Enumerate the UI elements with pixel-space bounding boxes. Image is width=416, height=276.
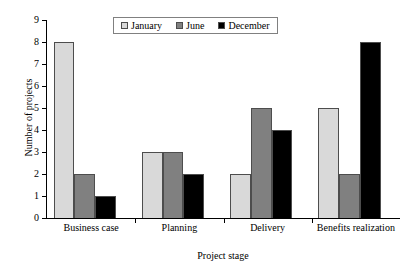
category-label-delivery: Delivery — [224, 222, 312, 233]
legend-item-january: January — [121, 20, 162, 31]
bar-january-benefits-realization — [318, 108, 339, 218]
y-tick-2 — [42, 174, 46, 175]
legend-swatch-icon-june — [176, 22, 183, 29]
legend-swatch-icon-december — [218, 22, 225, 29]
bar-january-delivery — [230, 174, 251, 218]
category-label-business-case: Business case — [47, 222, 135, 233]
y-tick-3 — [42, 152, 46, 153]
legend-label: June — [186, 20, 204, 31]
bar-group-bars — [47, 20, 142, 218]
bar-chart: Number of projects Project stage 0123456… — [0, 0, 416, 276]
y-tick-8 — [42, 42, 46, 43]
x-axis-line — [46, 218, 400, 219]
y-tick-label-6: 6 — [26, 81, 39, 91]
y-tick-label-7: 7 — [26, 59, 39, 69]
y-tick-9 — [42, 20, 46, 21]
x-axis-title: Project stage — [46, 250, 400, 261]
legend-item-june: June — [176, 20, 204, 31]
bar-december-delivery — [272, 130, 293, 218]
plot-area — [47, 20, 400, 218]
bar-group — [47, 20, 135, 218]
y-tick-label-9: 9 — [26, 15, 39, 25]
bar-group-bars — [135, 20, 230, 218]
bar-june-delivery — [251, 108, 272, 218]
y-tick-label-0: 0 — [26, 213, 39, 223]
bar-june-benefits-realization — [339, 174, 360, 218]
y-tick-label-3: 3 — [26, 147, 39, 157]
y-tick-6 — [42, 86, 46, 87]
category-label-planning: Planning — [135, 222, 223, 233]
bar-december-planning — [183, 174, 204, 218]
bar-group — [224, 20, 312, 218]
y-tick-label-1: 1 — [26, 191, 39, 201]
y-tick-0 — [42, 218, 46, 219]
y-tick-1 — [42, 196, 46, 197]
bar-december-benefits-realization — [360, 42, 381, 218]
legend-item-december: December — [218, 20, 269, 31]
legend-swatch-icon-january — [121, 22, 128, 29]
y-tick-label-5: 5 — [26, 103, 39, 113]
y-tick-4 — [42, 130, 46, 131]
y-tick-label-4: 4 — [26, 125, 39, 135]
bar-june-business-case — [74, 174, 95, 218]
bar-group-bars — [312, 20, 407, 218]
bar-group-bars — [224, 20, 319, 218]
y-tick-7 — [42, 64, 46, 65]
bar-june-planning — [163, 152, 184, 218]
chart-legend: JanuaryJuneDecember — [113, 17, 278, 34]
bar-january-planning — [142, 152, 163, 218]
category-label-benefits-realization: Benefits realization — [312, 222, 400, 233]
y-tick-5 — [42, 108, 46, 109]
bar-january-business-case — [54, 42, 75, 218]
legend-label: December — [228, 20, 269, 31]
bar-december-business-case — [95, 196, 116, 218]
y-tick-label-2: 2 — [26, 169, 39, 179]
legend-label: January — [131, 20, 162, 31]
y-tick-label-8: 8 — [26, 37, 39, 47]
bar-group — [312, 20, 400, 218]
bar-group — [135, 20, 223, 218]
